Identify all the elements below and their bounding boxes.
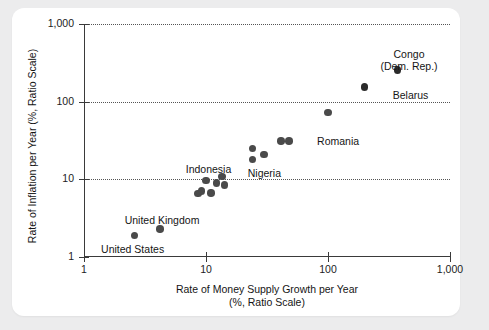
data-point-8 [221,181,229,189]
gridline-100 [84,102,450,103]
point-label-united-states: United States [101,243,164,255]
point-label-belarus: Belarus [393,89,429,101]
data-point-romania [285,137,293,145]
gridline-1000 [84,24,450,25]
x-axis-label: Rate of Money Supply Growth per Year (%,… [84,283,450,309]
annotation-congo-line-1: Congo [394,48,425,60]
data-point-5 [207,189,215,197]
y-tick-100 [79,102,89,103]
x-tick-1 [84,252,85,262]
x-tick-label-1: 1 [54,264,114,275]
x-tick-label-100: 100 [298,264,358,275]
y-axis-label: Rate of Inflation per Year (%, Ratio Sca… [26,46,38,246]
y-tick-label-1: 1 [28,251,74,262]
y-tick-10 [79,179,89,180]
y-tick-label-1,000: 1,000 [28,18,74,29]
x-tick-label-1,000: 1,000 [420,264,480,275]
data-point-11 [260,151,268,159]
x-tick-label-10: 10 [176,264,236,275]
point-label-romania: Romania [317,135,359,147]
data-point-belarus [361,83,369,91]
point-label-nigeria: Nigeria [248,167,281,179]
data-point-14 [324,109,332,117]
x-tick-100 [328,252,329,262]
x-tick-10 [206,252,207,262]
gridline-10 [84,179,450,180]
data-point-indonesia [213,179,221,187]
annotation-congo-line-2: (Dem. Rep.) [380,60,437,72]
point-label-indonesia: Indonesia [186,163,232,175]
data-point-united-kingdom [156,225,164,233]
data-point-3 [198,187,206,195]
point-label-united-kingdom: United Kingdom [125,214,200,226]
x-tick-1,000 [450,252,451,262]
x-axis-label-sub: (%, Ratio Scale) [84,296,450,309]
scatter-chart: 1101001,000 1101001,000 United StatesUni… [0,0,489,330]
data-point-12 [277,137,285,145]
y-tick-1,000 [79,24,89,25]
x-axis-label-main: Rate of Money Supply Growth per Year [84,283,450,296]
